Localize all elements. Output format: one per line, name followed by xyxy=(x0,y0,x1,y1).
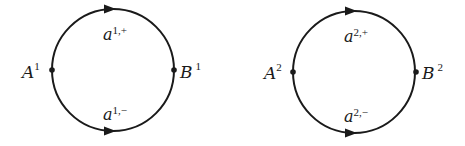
diagram-canvas: A1 B1 a1,+ a1,− A2 B2 a2,+ a2,− xyxy=(0,0,465,146)
vertex-B2-label: B2 xyxy=(421,61,443,83)
edge-a2-minus-label: a2,− xyxy=(344,106,368,126)
arrow-upper-2-icon xyxy=(345,7,357,16)
edge-a2-plus-label: a2,+ xyxy=(344,26,368,46)
edge-a1-plus-label: a1,+ xyxy=(103,24,127,44)
vertex-B2-dot xyxy=(413,69,419,75)
graph-1: A1 B1 a1,+ a1,− xyxy=(20,5,201,136)
vertex-A2-dot xyxy=(290,69,296,75)
edge-a1-minus-label: a1,− xyxy=(103,104,127,124)
vertex-B1-dot xyxy=(171,67,177,73)
vertex-B1-label: B1 xyxy=(179,60,201,82)
graph-2: A2 B2 a2,+ a2,− xyxy=(262,7,443,138)
vertex-A1-label: A1 xyxy=(20,60,40,82)
vertex-A1-dot xyxy=(49,67,55,73)
arrow-lower-1-icon xyxy=(104,127,116,136)
arrow-upper-1-icon xyxy=(104,5,116,14)
vertex-A2-label: A2 xyxy=(262,61,282,83)
arrow-lower-2-icon xyxy=(345,129,357,138)
